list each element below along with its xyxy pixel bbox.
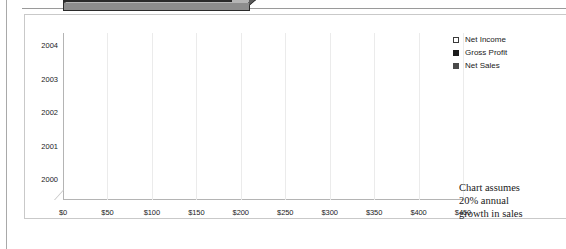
legend-item-net-sales[interactable]: Net Sales [453, 59, 566, 72]
y-axis-line [63, 33, 64, 200]
x-tick-label: $150 [188, 208, 204, 217]
x-tick-label: $100 [144, 208, 160, 217]
x-tick-label: $200 [233, 208, 249, 217]
bar-side-face [249, 0, 256, 6]
gridline [241, 33, 242, 200]
x-tick-label: $300 [322, 208, 338, 217]
gridline [152, 33, 153, 200]
chart-legend: Net IncomeGross ProfitNet Sales [453, 33, 566, 72]
x-tick-label: $350 [366, 208, 382, 217]
annotation-line-2: 20% annual [459, 194, 566, 207]
y-category-label-2002: 2002 [41, 108, 58, 117]
y-category-label-2003: 2003 [41, 74, 58, 83]
annotation-line-3: growth in sales [459, 207, 566, 220]
gridline [330, 33, 331, 200]
gridline [419, 33, 420, 200]
annotation-line-1: Chart assumes [459, 181, 566, 194]
y-category-label-2004: 2004 [41, 41, 58, 50]
gridline [107, 33, 108, 200]
open-square-marker [453, 37, 459, 43]
gridline [285, 33, 286, 200]
x-axis-line [63, 199, 463, 200]
gridline [374, 33, 375, 200]
gray-square-marker [453, 63, 459, 69]
y-category-label-2000: 2000 [41, 175, 58, 184]
legend-item-label: Gross Profit [465, 48, 507, 57]
chart-container[interactable]: $0$50$100$150$200$250$300$350$400$450 20… [24, 14, 566, 219]
bar-net-sales-2000[interactable] [63, 2, 250, 11]
y-category-label-2001: 2001 [41, 141, 58, 150]
filled-square-marker [453, 50, 459, 56]
plot-area: $0$50$100$150$200$250$300$350$400$450 20… [63, 33, 463, 219]
page-left-border [6, 0, 7, 249]
x-tick-label: $50 [101, 208, 113, 217]
x-tick-label: $400 [410, 208, 426, 217]
bar-gross-profit-2000[interactable] [63, 0, 232, 2]
x-tick-label: $250 [277, 208, 293, 217]
legend-item-net-income[interactable]: Net Income [453, 33, 566, 46]
x-tick-label: $0 [59, 208, 67, 217]
legend-item-label: Net Income [465, 35, 506, 44]
gridline [196, 33, 197, 200]
legend-item-gross-profit[interactable]: Gross Profit [453, 46, 566, 59]
chart-annotation: Chart assumes 20% annual growth in sales [459, 181, 566, 220]
legend-item-label: Net Sales [465, 61, 500, 70]
